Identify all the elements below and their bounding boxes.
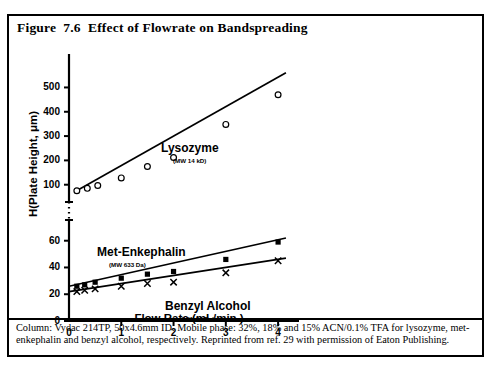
figure-frame: Figure 7.6 Effect of Flowrate on Bandspr…: [7, 14, 484, 357]
figure-caption: Column: Vydac 214TP, 50x4.6mm ID. Mobile…: [16, 322, 475, 347]
chart-canvas: [9, 40, 482, 330]
y-axis-title: H(Plate Height, μm): [27, 94, 39, 234]
fit-line-2: [69, 258, 286, 291]
data-point-0-3: [118, 175, 124, 181]
y-tick-label-lower-60: 60: [26, 235, 60, 246]
data-point-0-7: [275, 92, 281, 98]
caption-divider: [9, 318, 482, 320]
data-point-2-6: [223, 270, 229, 276]
data-point-1-2: [93, 280, 98, 285]
fit-line-0: [75, 73, 286, 192]
data-point-1-0: [74, 284, 79, 289]
data-point-2-0: [74, 288, 80, 294]
series-label-2: Benzyl Alcohol: [165, 299, 251, 313]
figure-title: Figure 7.6 Effect of Flowrate on Bandspr…: [17, 20, 308, 36]
data-point-0-4: [145, 164, 151, 170]
data-point-0-1: [84, 185, 90, 191]
data-point-2-2: [92, 286, 98, 292]
series-lysozyme: [74, 73, 286, 194]
data-point-0-6: [223, 122, 229, 128]
series-sublabel-0: (MW 14 kD): [173, 157, 206, 164]
y-tick-label-lower-40: 40: [26, 261, 60, 272]
data-point-2-5: [170, 279, 176, 285]
data-point-1-1: [82, 282, 87, 287]
data-point-0-2: [95, 183, 101, 189]
y-tick-label-lower-20: 20: [26, 288, 60, 299]
data-point-1-3: [119, 276, 124, 281]
data-point-1-6: [223, 257, 228, 262]
series-benzyl-alcohol: [69, 258, 286, 295]
data-point-0-0: [74, 188, 80, 194]
data-point-1-4: [145, 272, 150, 277]
series-label-0: Lysozyme: [161, 141, 219, 155]
series-label-1: Met-Enkephalin: [97, 245, 186, 259]
series-sublabel-1: (MW 633 Da): [109, 261, 146, 268]
data-point-2-4: [144, 280, 150, 286]
data-point-1-7: [275, 239, 280, 244]
y-tick-label-500: 500: [26, 81, 60, 92]
chart-plot-area: 100200300400500020406001234 Lysozyme(MW …: [9, 40, 482, 330]
data-point-1-5: [171, 269, 176, 274]
